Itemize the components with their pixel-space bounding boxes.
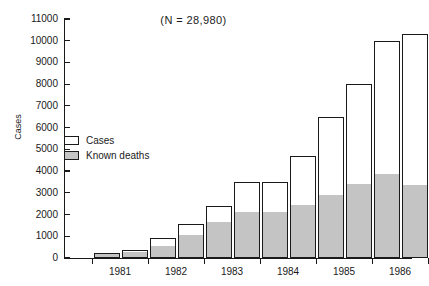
x-tick-5 xyxy=(372,258,373,264)
y-tick-label-wrap: 3000 xyxy=(0,188,64,198)
bar-1982-h1 xyxy=(150,238,176,258)
bar-deaths-segment xyxy=(123,252,147,257)
y-tick-label-11000: 11000 xyxy=(4,14,58,24)
bar-deaths-segment xyxy=(95,254,119,257)
y-tick-label-0: 0 xyxy=(4,253,58,263)
bar-deaths-segment xyxy=(207,222,231,257)
bar-deaths-segment xyxy=(319,195,343,257)
y-tick-8000 xyxy=(64,84,70,85)
y-tick-label-wrap: 1000 xyxy=(0,231,64,241)
y-tick-7000 xyxy=(64,105,70,106)
y-tick-10000 xyxy=(64,40,70,41)
bar-1986-h1 xyxy=(374,41,400,258)
x-axis-label-1983: 1983 xyxy=(207,266,257,277)
bar-1986-h2 xyxy=(402,34,428,258)
gray-square-icon xyxy=(64,151,79,160)
y-tick-6000 xyxy=(64,127,70,128)
bar-1983-h1 xyxy=(206,206,232,258)
y-tick-label-1000: 1000 xyxy=(4,231,58,241)
x-axis-label-1984: 1984 xyxy=(263,266,313,277)
bar-1982-h2 xyxy=(178,224,204,258)
bar-1983-h2 xyxy=(234,182,260,258)
y-tick-label-wrap: 5000 xyxy=(0,144,64,154)
y-tick-label-7000: 7000 xyxy=(4,101,58,111)
y-tick-label-2000: 2000 xyxy=(4,210,58,220)
bar-deaths-segment xyxy=(263,212,287,257)
y-tick-label-8000: 8000 xyxy=(4,79,58,89)
x-axis-label-1981: 1981 xyxy=(95,266,145,277)
y-tick-label-wrap: 4000 xyxy=(0,166,64,176)
chart-legend: Cases Known deaths xyxy=(64,133,149,163)
legend-label-cases: Cases xyxy=(86,134,114,147)
x-tick-1 xyxy=(148,258,149,264)
x-tick-2 xyxy=(204,258,205,264)
y-tick-label-wrap: 7000 xyxy=(0,101,64,111)
x-axis-label-1986: 1986 xyxy=(375,266,425,277)
bar-deaths-segment xyxy=(403,185,427,257)
x-axis-label-1982: 1982 xyxy=(151,266,201,277)
bar-deaths-segment xyxy=(179,235,203,257)
bar-1985-h1 xyxy=(318,117,344,258)
y-tick-label-10000: 10000 xyxy=(4,36,58,46)
y-tick-4000 xyxy=(64,170,70,171)
y-tick-label-9000: 9000 xyxy=(4,57,58,67)
y-tick-3000 xyxy=(64,192,70,193)
x-tick-0 xyxy=(92,258,93,264)
bar-deaths-segment xyxy=(235,212,259,257)
x-axis-label-1985: 1985 xyxy=(319,266,369,277)
bar-deaths-segment xyxy=(151,246,175,257)
bar-deaths-segment xyxy=(291,205,315,257)
chart-title-text: (N = 28,980) xyxy=(160,14,226,26)
legend-item-known-deaths: Known deaths xyxy=(64,148,149,162)
bar-1981-h1 xyxy=(94,253,120,258)
x-tick-4 xyxy=(316,258,317,264)
y-tick-0 xyxy=(64,257,70,258)
y-tick-1000 xyxy=(64,236,70,237)
y-tick-label-wrap: 6000 xyxy=(0,123,64,133)
y-tick-label-5000: 5000 xyxy=(4,144,58,154)
y-tick-label-6000: 6000 xyxy=(4,123,58,133)
x-tick-3 xyxy=(260,258,261,264)
legend-item-cases: Cases xyxy=(64,133,149,147)
bar-1984-h2 xyxy=(290,156,316,258)
y-tick-label-wrap: 9000 xyxy=(0,57,64,67)
bar-1981-h2 xyxy=(122,250,148,258)
y-tick-label-3000: 3000 xyxy=(4,188,58,198)
bar-1984-h1 xyxy=(262,182,288,258)
bar-1985-h2 xyxy=(346,84,372,258)
y-tick-11000 xyxy=(64,18,70,19)
y-tick-label-4000: 4000 xyxy=(4,166,58,176)
y-tick-label-wrap: 2000 xyxy=(0,210,64,220)
y-tick-label-wrap: 10000 xyxy=(0,36,64,46)
y-tick-9000 xyxy=(64,62,70,63)
y-tick-label-wrap: 8000 xyxy=(0,79,64,89)
y-tick-label-wrap: 0 xyxy=(0,253,64,263)
bar-deaths-segment xyxy=(347,184,371,257)
bar-deaths-segment xyxy=(375,174,399,257)
white-square-icon xyxy=(64,136,79,145)
y-tick-label-wrap: 11000 xyxy=(0,14,64,24)
legend-label-known-deaths: Known deaths xyxy=(86,149,149,162)
y-tick-2000 xyxy=(64,214,70,215)
